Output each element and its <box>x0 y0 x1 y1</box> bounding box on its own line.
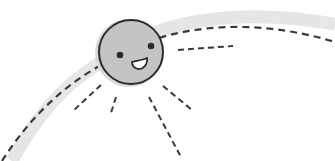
sun-body <box>99 20 163 84</box>
ray-bottom-left <box>111 97 116 113</box>
sun-illustration <box>0 0 335 161</box>
ray-bottom <box>149 97 181 157</box>
ray-right <box>178 46 233 50</box>
sun-left-eye <box>117 52 124 59</box>
sun-illustration-svg <box>0 0 335 161</box>
orbit-band <box>12 17 335 161</box>
ray-lower-left <box>74 85 101 110</box>
sun <box>95 19 163 87</box>
sun-right-eye <box>148 43 155 50</box>
ray-lower-right <box>163 86 192 110</box>
